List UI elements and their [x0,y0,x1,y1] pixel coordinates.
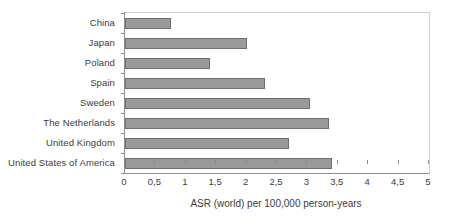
category-label: China [90,17,120,28]
bar [125,98,310,109]
category-tick [121,173,125,174]
bar-row [125,73,429,93]
bar-series [125,13,429,173]
category-label: The Netherlands [43,117,120,128]
category-label: United States of America [8,157,120,168]
value-axis-tick-label: 2 [243,176,248,187]
bar [125,38,247,49]
value-axis-tick [367,160,368,164]
category-label: Poland [85,57,120,68]
category-tick [121,113,125,114]
value-axis-tick [154,160,155,164]
bar [125,18,171,29]
value-axis-tick [276,160,277,164]
bar-chart: ChinaJapanPolandSpainSwedenThe Netherlan… [0,0,450,221]
category-label: Sweden [80,97,120,108]
bar [125,158,332,169]
value-axis-tick [337,160,338,164]
bar-row [125,153,429,173]
category-tick [121,93,125,94]
value-axis-tick [124,160,125,164]
value-axis-tick [428,160,429,164]
bar-row [125,13,429,33]
value-axis-tick-label: 3,5 [330,176,343,187]
value-axis-tick-label: 2,5 [269,176,282,187]
value-axis-tick [185,160,186,164]
bar-row [125,33,429,53]
value-axis-tick [398,160,399,164]
value-axis-tick-label: 4 [365,176,370,187]
category-label: United Kingdom [46,137,120,148]
value-axis-tick [246,160,247,164]
category-tick [121,153,125,154]
plot-area [124,12,430,174]
bar-row [125,133,429,153]
category-label: Japan [89,37,120,48]
category-tick [121,13,125,14]
category-tick [121,73,125,74]
value-axis-tick-label: 4,5 [391,176,404,187]
value-axis-tick-label: 5 [425,176,430,187]
bar [125,138,289,149]
category-label: Spain [90,77,120,88]
value-axis-tick-label: 0,5 [148,176,161,187]
value-axis-tick-label: 0 [121,176,126,187]
value-axis-tick-label: 3 [304,176,309,187]
value-axis-tick-label: 1,5 [209,176,222,187]
category-axis-labels: ChinaJapanPolandSpainSwedenThe Netherlan… [0,12,120,172]
value-axis-tick [215,160,216,164]
bar-row [125,113,429,133]
bar-row [125,93,429,113]
category-tick [121,133,125,134]
value-axis-tick-label: 1 [182,176,187,187]
bar [125,78,265,89]
bar [125,58,210,69]
category-tick [121,53,125,54]
bar [125,118,329,129]
category-tick [121,33,125,34]
value-axis-tick [306,160,307,164]
bar-row [125,53,429,73]
x-axis-title: ASR (world) per 100,000 person-years [124,198,428,209]
